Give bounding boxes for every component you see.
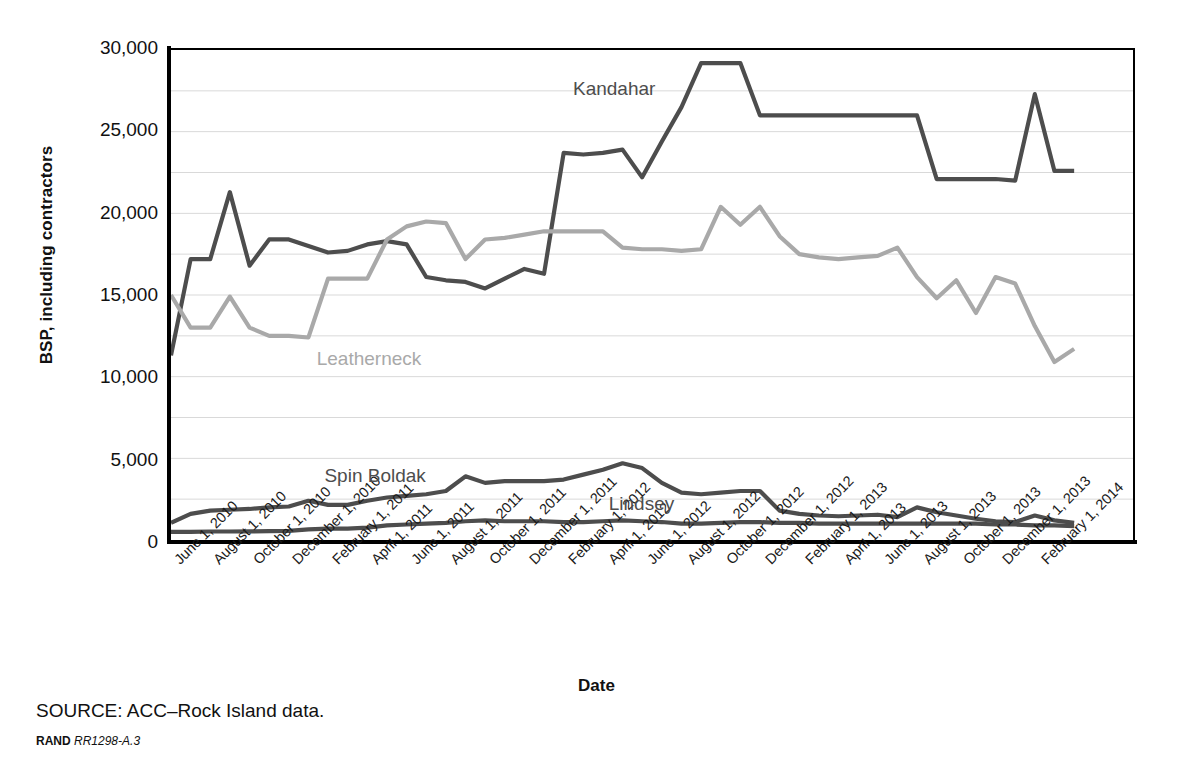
series-label-kandahar: Kandahar: [573, 78, 655, 100]
figure-canvas: BSP, including contractors 05,00010,0001…: [0, 0, 1193, 774]
x-axis-title: Date: [0, 676, 1193, 696]
series-label-spin-boldak: Spin Boldak: [324, 465, 425, 487]
series-label-leatherneck: Leatherneck: [317, 348, 422, 370]
rand-report-id: RAND RR1298-A.3: [36, 734, 140, 748]
source-note: SOURCE: ACC–Rock Island data.: [36, 700, 324, 722]
rand-report-number: RR1298-A.3: [74, 734, 140, 748]
series-label-lindsey: Lindsey: [609, 493, 675, 515]
x-axis-tick-labels: June 1, 2010August 1, 2010October 1, 201…: [0, 0, 1193, 774]
rand-logo-text: RAND: [36, 734, 71, 748]
